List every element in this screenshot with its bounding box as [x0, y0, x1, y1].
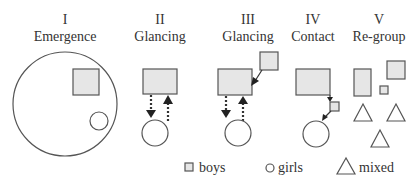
stage-1-name: Emergence	[34, 29, 97, 44]
boy-tiny-square-icon	[380, 86, 388, 94]
mixed-triangle-icon	[371, 130, 389, 147]
stage-4-numeral: IV	[306, 12, 321, 27]
arrowhead-up-icon	[163, 95, 173, 104]
stage-3-name: Glancing	[222, 29, 273, 44]
legend-mixed-icon	[337, 158, 355, 174]
girls-circle-icon	[225, 120, 251, 146]
stage-3-title: III Glancing	[222, 12, 273, 44]
boys-square-icon	[73, 69, 99, 95]
stage-4-title: IV Contact	[291, 12, 335, 44]
legend-boys-label: boys	[199, 160, 225, 175]
legend-girls-label: girls	[278, 160, 303, 175]
stage-1-numeral: I	[63, 12, 68, 27]
stage-2-title: II Glancing	[134, 12, 185, 44]
girls-circle-icon	[142, 120, 168, 146]
stage-1-title: I Emergence	[34, 12, 97, 44]
arrowhead-icon	[327, 97, 333, 102]
mixed-triangle-icon	[387, 104, 405, 121]
stage-2-name: Glancing	[134, 29, 185, 44]
legend-girls-icon	[266, 164, 274, 172]
arrowhead-down-icon	[146, 110, 156, 118]
mixed-triangle-icon	[354, 104, 372, 121]
stage-5-figure	[354, 61, 405, 147]
legend: boys girls mixed	[185, 158, 394, 175]
stage-4-name: Contact	[291, 29, 335, 44]
legend-boys-icon	[185, 163, 193, 171]
boy-small-square-icon	[260, 52, 278, 70]
stage-4-figure	[296, 69, 339, 147]
stage-3-figure	[218, 52, 278, 146]
contact-arrow-2-icon	[326, 111, 331, 116]
stage-5-title: V Re-group	[353, 12, 406, 44]
stage-2-numeral: II	[155, 12, 165, 27]
girls-circle-icon	[90, 112, 108, 130]
boys-square-icon	[296, 69, 330, 95]
boys-square-icon	[218, 69, 252, 95]
boy-tiny-square-icon	[330, 102, 339, 111]
girls-circle-icon	[303, 121, 329, 147]
stage-5-numeral: V	[374, 12, 384, 27]
stage-3-numeral: III	[241, 12, 255, 27]
boys-rect-icon	[354, 69, 371, 96]
boys-square-icon	[387, 61, 405, 79]
stage-5-name: Re-group	[353, 29, 406, 44]
arrowhead-down-icon	[221, 110, 231, 118]
stage-diagram: I Emergence II Glancing III Glancing IV …	[0, 0, 420, 184]
legend-mixed-label: mixed	[359, 160, 394, 175]
stage-2-figure	[142, 69, 177, 146]
group-circle-icon	[13, 52, 117, 156]
arrowhead-up-icon	[238, 96, 248, 104]
stage-1-figure	[13, 52, 117, 156]
boys-square-icon	[143, 69, 177, 94]
